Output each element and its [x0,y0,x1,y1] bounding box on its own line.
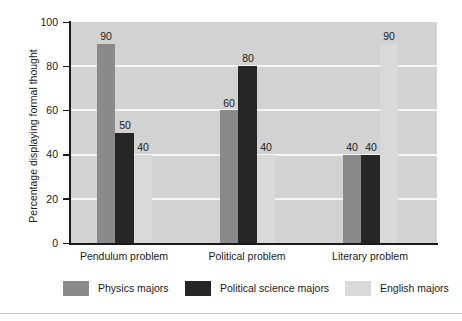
legend-swatch-english-majors [345,281,371,296]
chart-legend: Physics majors Political science majors … [0,279,462,301]
y-tick-mark-40 [63,154,70,156]
y-tick-label-20: 20 [18,194,58,205]
y-tick-mark-60 [63,110,70,112]
bar-value-pendulum-physics: 90 [91,31,121,42]
bar-pendulum-physics [97,44,115,243]
y-tick-label-0: 0 [18,238,58,249]
legend-label-physics-majors: Physics majors [98,282,169,294]
bar-value-literary-polisci: 40 [356,142,386,153]
y-tick-mark-100 [63,22,70,24]
bar-chart-figure: Percentage displaying formal thought 100… [0,0,462,321]
y-axis-line [69,21,71,244]
bar-pendulum-english [134,155,152,243]
y-tick-mark-80 [63,66,70,68]
y-tick-label-100: 100 [18,17,58,28]
bar-political-polisci [238,66,257,243]
y-tick-mark-0 [63,243,70,245]
bar-political-english [257,155,275,243]
y-axis-title: Percentage displaying formal thought [27,21,39,251]
y-tick-mark-20 [63,198,70,200]
y-tick-label-40: 40 [18,149,58,160]
bar-literary-physics [343,155,361,243]
legend-item-political-science-majors: Political science majors [185,279,329,297]
legend-swatch-political-science-majors [185,281,211,296]
bar-value-pendulum-polisci: 50 [110,120,140,131]
bar-value-political-english: 40 [251,142,281,153]
bar-value-political-physics: 60 [214,98,244,109]
x-group-label-pendulum: Pendulum problem [54,250,194,262]
legend-label-political-science-majors: Political science majors [220,282,329,294]
legend-label-english-majors: English majors [380,282,449,294]
bar-value-pendulum-english: 40 [128,142,158,153]
x-group-label-literary: Literary problem [300,250,440,262]
y-tick-label-60: 60 [18,105,58,116]
bottom-divider [0,313,462,314]
legend-item-physics-majors: Physics majors [63,279,169,297]
y-tick-label-80: 80 [18,61,58,72]
bar-value-literary-english: 90 [374,31,404,42]
legend-item-english-majors: English majors [345,279,449,297]
x-axis-line [69,243,438,245]
bar-value-political-polisci: 80 [233,53,263,64]
legend-swatch-physics-majors [63,281,89,296]
bar-literary-polisci [361,155,380,243]
bar-political-physics [220,110,238,243]
x-group-label-political: Political problem [177,250,317,262]
